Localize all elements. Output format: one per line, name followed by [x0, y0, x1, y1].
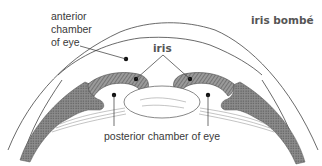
- label-iris: iris: [153, 42, 172, 54]
- label-anterior-line1: anterior: [51, 10, 87, 22]
- label-anterior-line2: chamber: [51, 23, 92, 35]
- label-posterior-chamber: posterior chamber of eye: [104, 130, 220, 142]
- diagram-title: iris bombé: [251, 14, 314, 26]
- iris-leader-left: [136, 55, 163, 79]
- iris-leader-right: [163, 55, 190, 79]
- label-anterior-line3: of eye: [51, 36, 80, 48]
- iris-bombe-diagram: iris bombé anterior chamber of eye iris …: [0, 0, 322, 166]
- lens: [124, 86, 200, 118]
